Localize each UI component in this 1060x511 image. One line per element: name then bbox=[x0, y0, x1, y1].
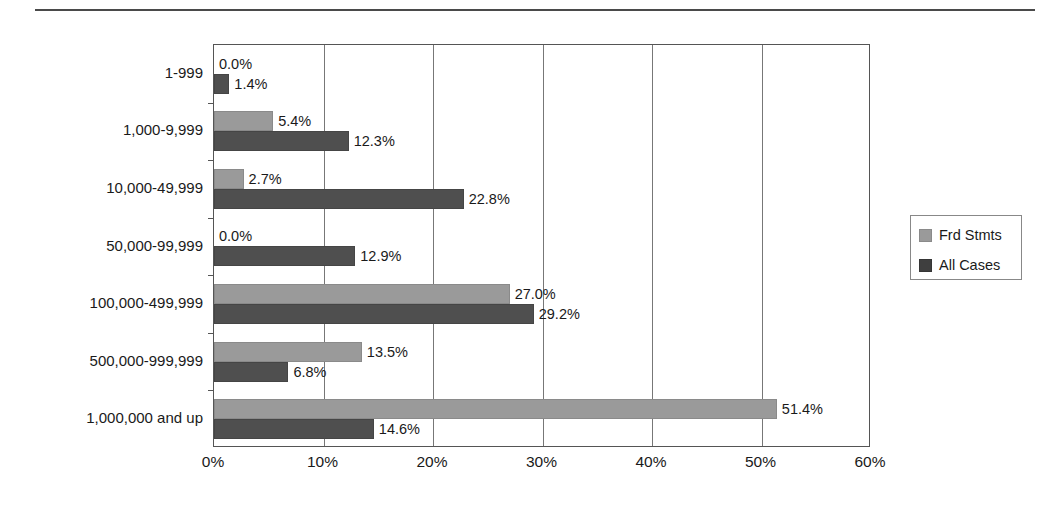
bar-value-label: 14.6% bbox=[379, 419, 420, 439]
category-band: 5.4%12.3% bbox=[214, 103, 869, 161]
category-label: 1-999 bbox=[7, 64, 203, 81]
category-band: 13.5%6.8% bbox=[214, 333, 869, 391]
axis-tick bbox=[208, 390, 214, 391]
bar-value-label: 29.2% bbox=[539, 304, 580, 324]
category-band: 2.7%22.8% bbox=[214, 160, 869, 218]
top-divider-rule bbox=[35, 9, 1035, 11]
axis-tick bbox=[208, 333, 214, 334]
bar-0 bbox=[214, 342, 362, 362]
category-label: 500,000-999,999 bbox=[7, 352, 203, 369]
x-tick-label: 50% bbox=[745, 452, 776, 472]
bar-value-label: 12.9% bbox=[360, 246, 401, 266]
x-tick-label: 40% bbox=[635, 452, 666, 472]
category-axis: 1-9991,000-9,99910,000-49,99950,000-99,9… bbox=[0, 44, 203, 447]
plot-area: 0.0%1.4%5.4%12.3%2.7%22.8%0.0%12.9%27.0%… bbox=[213, 44, 870, 447]
legend-item: All Cases bbox=[919, 257, 1000, 273]
x-tick-label: 60% bbox=[854, 452, 885, 472]
category-label: 10,000-49,999 bbox=[7, 179, 203, 196]
axis-tick bbox=[208, 160, 214, 161]
bar-value-label: 1.4% bbox=[234, 74, 267, 94]
x-axis: 0%10%20%30%40%50%60% bbox=[0, 452, 1060, 482]
legend-swatch-icon bbox=[919, 259, 932, 272]
x-tick-label: 20% bbox=[416, 452, 447, 472]
bar-value-label: 0.0% bbox=[219, 226, 252, 246]
bar-value-label: 27.0% bbox=[515, 284, 556, 304]
category-label: 100,000-499,999 bbox=[7, 294, 203, 311]
legend-item: Frd Stmts bbox=[919, 227, 1002, 243]
bar-1 bbox=[214, 189, 464, 209]
legend-swatch-icon bbox=[919, 229, 932, 242]
legend-label: All Cases bbox=[939, 257, 1000, 273]
category-band: 51.4%14.6% bbox=[214, 390, 869, 448]
bar-1 bbox=[214, 362, 288, 382]
x-tick-label: 30% bbox=[526, 452, 557, 472]
bar-value-label: 6.8% bbox=[293, 362, 326, 382]
category-band: 0.0%12.9% bbox=[214, 218, 869, 276]
bar-1 bbox=[214, 304, 534, 324]
bar-value-label: 13.5% bbox=[367, 342, 408, 362]
bar-0 bbox=[214, 169, 244, 189]
bar-value-label: 22.8% bbox=[469, 189, 510, 209]
bar-value-label: 2.7% bbox=[249, 169, 282, 189]
category-band: 0.0%1.4% bbox=[214, 45, 869, 103]
bar-1 bbox=[214, 419, 374, 439]
axis-tick bbox=[208, 218, 214, 219]
bar-0 bbox=[214, 111, 273, 131]
bar-value-label: 51.4% bbox=[782, 399, 823, 419]
category-label: 1,000-9,999 bbox=[7, 121, 203, 138]
bar-value-label: 12.3% bbox=[354, 131, 395, 151]
category-label: 1,000,000 and up bbox=[7, 409, 203, 426]
bar-value-label: 5.4% bbox=[278, 111, 311, 131]
bar-1 bbox=[214, 131, 349, 151]
legend-label: Frd Stmts bbox=[939, 227, 1002, 243]
category-band: 27.0%29.2% bbox=[214, 275, 869, 333]
x-tick-label: 0% bbox=[202, 452, 224, 472]
x-tick-label: 10% bbox=[307, 452, 338, 472]
bar-0 bbox=[214, 399, 777, 419]
bar-1 bbox=[214, 74, 229, 94]
category-label: 50,000-99,999 bbox=[7, 237, 203, 254]
bar-1 bbox=[214, 246, 355, 266]
axis-tick bbox=[208, 103, 214, 104]
bar-0 bbox=[214, 284, 510, 304]
bar-chart-figure: 1-9991,000-9,99910,000-49,99950,000-99,9… bbox=[0, 0, 1060, 511]
chart-legend: Frd StmtsAll Cases bbox=[910, 215, 1022, 280]
bar-value-label: 0.0% bbox=[219, 54, 252, 74]
axis-tick bbox=[208, 275, 214, 276]
